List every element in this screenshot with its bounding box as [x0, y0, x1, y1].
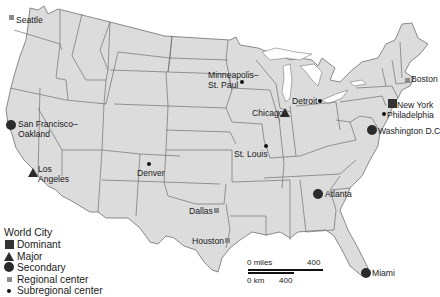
city-label-line: Washington D.C	[378, 126, 440, 136]
city-label-line: San Francisco–	[18, 119, 78, 129]
city-label-line: Dallas	[189, 206, 213, 216]
city-label-line: Minneapolis–	[208, 70, 259, 80]
dominant-square-icon	[388, 99, 397, 108]
legend-item-dominant: Dominant	[4, 239, 103, 251]
legend-label: Secondary	[17, 262, 66, 273]
scale-miles-start: 0 miles	[247, 258, 272, 267]
city-label-line: Angeles	[38, 174, 69, 184]
city-label: Washington D.C	[378, 126, 440, 136]
secondary-circle-icon	[4, 262, 14, 272]
city-label-line: Detroit	[292, 96, 317, 106]
city-label-line: Los	[38, 164, 69, 174]
legend: World City Dominant Major Secondary Regi…	[4, 226, 103, 297]
city-label: Houston	[192, 236, 224, 246]
city-label: New York	[397, 100, 433, 110]
city-label: Philadelphia	[387, 110, 434, 120]
major-triangle-icon	[28, 168, 38, 177]
scale-km-start: 0 km	[247, 276, 264, 285]
scale-miles-end: 400	[307, 258, 320, 267]
legend-item-subregional: Subregional center	[4, 285, 103, 297]
legend-label: Major	[17, 251, 42, 262]
city-label: Seattle	[16, 15, 43, 25]
city-label: Atlanta	[325, 189, 352, 199]
regional-square-icon	[405, 78, 410, 83]
city-label-line: New York	[397, 100, 433, 110]
city-label-line: Oakland	[18, 129, 78, 139]
legend-title: World City	[4, 226, 103, 238]
city-label: Chicago	[252, 108, 284, 118]
secondary-circle-icon	[367, 125, 377, 135]
regional-square-icon	[7, 277, 12, 282]
city-label-line: Philadelphia	[387, 110, 434, 120]
regional-square-icon	[225, 238, 230, 243]
subregional-dot-icon	[318, 99, 322, 103]
legend-item-major: Major	[4, 251, 103, 263]
secondary-circle-icon	[361, 268, 371, 278]
dominant-square-icon	[5, 240, 14, 249]
city-label-line: Atlanta	[325, 189, 352, 199]
subregional-dot-icon	[147, 162, 151, 166]
city-label: Detroit	[292, 96, 317, 106]
city-label: LosAngeles	[38, 164, 69, 184]
city-label-line: St. Paul	[208, 80, 259, 90]
scale-km-end: 400	[279, 276, 292, 285]
city-label-line: Seattle	[16, 15, 43, 25]
legend-item-secondary: Secondary	[4, 262, 103, 274]
secondary-circle-icon	[313, 189, 323, 199]
city-label: Minneapolis–St. Paul	[208, 70, 259, 90]
subregional-dot-icon	[382, 112, 386, 116]
city-label-line: St. Louis	[234, 149, 267, 159]
city-label-line: Denver	[137, 168, 165, 178]
city-label: Denver	[137, 168, 165, 178]
city-label: Boston	[411, 74, 438, 84]
legend-label: Regional center	[17, 274, 88, 285]
legend-label: Dominant	[17, 239, 61, 250]
legend-label: Subregional center	[17, 285, 103, 296]
city-label-line: Miami	[372, 268, 395, 278]
city-label-line: Chicago	[252, 108, 284, 118]
scale-bar: 0 miles 400 0 km 400	[247, 258, 357, 288]
regional-square-icon	[9, 15, 14, 20]
scale-line-km	[248, 272, 294, 274]
secondary-circle-icon	[6, 120, 16, 130]
major-triangle-icon	[4, 252, 14, 261]
city-label: Miami	[372, 268, 395, 278]
legend-item-regional: Regional center	[4, 274, 103, 286]
city-label: Dallas	[189, 206, 213, 216]
city-label: San Francisco–Oakland	[18, 119, 78, 139]
subregional-dot-icon	[264, 144, 268, 148]
city-label: St. Louis	[234, 149, 267, 159]
scale-line-miles	[248, 269, 323, 271]
lake-superior	[262, 48, 312, 60]
city-label-line: Boston	[411, 74, 438, 84]
city-label-line: Houston	[192, 236, 224, 246]
subregional-dot-icon	[7, 289, 11, 293]
regional-square-icon	[214, 208, 219, 213]
